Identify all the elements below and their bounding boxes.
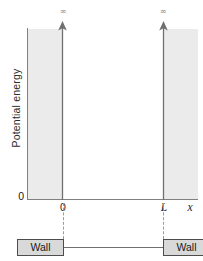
infinite-square-well-figure: ∞ ∞ Potential energy 0 0 L x Wall Wall — [0, 0, 203, 261]
x-axis-tick-L: L — [154, 201, 174, 213]
x-axis-line — [27, 199, 198, 200]
left-infinity-label: ∞ — [52, 7, 74, 17]
y-axis-title: Potential energy — [10, 48, 22, 168]
right-wall-box: Wall — [163, 239, 203, 256]
y-axis-tick-zero: 0 — [14, 190, 24, 202]
left-wall-box: Wall — [17, 239, 64, 256]
left-dashed-connector — [63, 203, 64, 239]
left-barrier-arrow-icon — [56, 20, 69, 200]
right-barrier-arrow-icon — [157, 20, 170, 200]
right-infinity-label: ∞ — [152, 7, 174, 17]
x-axis-title: x — [183, 201, 197, 213]
wall-connecting-line — [63, 247, 163, 248]
right-dashed-connector — [163, 203, 164, 239]
y-axis-line — [27, 28, 28, 200]
